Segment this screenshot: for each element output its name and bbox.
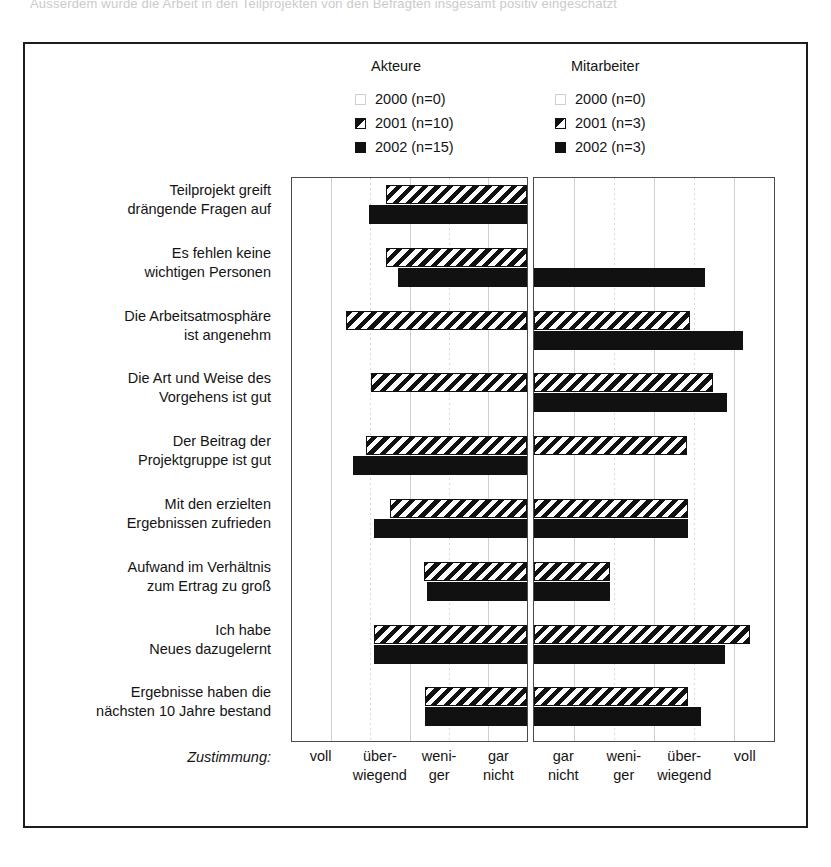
category-label-line: Teilprojekt greift: [25, 181, 271, 200]
legend-item-label: 2001 (n=10): [375, 115, 454, 131]
category-label: Die Arbeitsatmosphäreist angenehm: [25, 307, 271, 345]
chart-row: [534, 680, 774, 742]
chart-row: [534, 618, 774, 681]
category-label-line: Ergebnissen zufrieden: [25, 514, 271, 533]
bar-filled: [374, 519, 527, 538]
bar-hatched: [534, 625, 750, 644]
axis-tick-label: voll: [709, 747, 781, 766]
page-top-text-strip: Ausserdem wurde die Arbeit in den Teilpr…: [0, 0, 831, 26]
category-label-line: Projektgruppe ist gut: [25, 451, 271, 470]
category-label-line: Die Art und Weise des: [25, 369, 271, 388]
legend-item-label: 2002 (n=15): [375, 139, 454, 155]
category-label-line: Mit den erzielten: [25, 495, 271, 514]
bar-filled: [374, 645, 527, 664]
bar-filled: [534, 519, 688, 538]
bar-filled: [534, 331, 743, 350]
bar-hatched: [534, 373, 713, 392]
category-label-line: zum Ertrag zu groß: [25, 577, 271, 596]
category-label-line: Aufwand im Verhältnis: [25, 558, 271, 577]
chart-row: [534, 304, 774, 367]
axis-tick-label: garnicht: [462, 747, 534, 785]
legend-group-mitarbeiter: Mitarbeiter 2000 (n=0) 2001 (n=3) 2002 (…: [555, 58, 646, 160]
chart-row: [292, 555, 527, 618]
chart-row: [292, 680, 527, 742]
category-label-line: Vorgehens ist gut: [25, 388, 271, 407]
chart-row: [534, 492, 774, 555]
chart-row: [292, 178, 527, 241]
plot-panel-mitarbeiter: [533, 177, 775, 742]
chart-row: [534, 555, 774, 618]
category-label-line: Ergebnisse haben die: [25, 683, 271, 702]
filled-square-icon: [555, 142, 566, 153]
bar-filled: [534, 582, 610, 601]
figure-frame: Akteure 2000 (n=0) 2001 (n=10) 2002 (n=1…: [23, 42, 808, 828]
category-label-line: Neues dazugelernt: [25, 640, 271, 659]
bar-filled: [534, 393, 727, 412]
legend-title-mitarbeiter: Mitarbeiter: [571, 58, 646, 74]
legend-item: 2001 (n=10): [355, 112, 454, 134]
chart-row: [534, 429, 774, 492]
bar-hatched: [366, 436, 527, 455]
legend-item-label: 2001 (n=3): [575, 115, 646, 131]
chart-row: [292, 304, 527, 367]
bar-hatched: [534, 562, 610, 581]
bar-hatched: [390, 499, 527, 518]
chart-row: [292, 618, 527, 681]
bar-hatched: [534, 311, 690, 330]
category-label-line: nächsten 10 Jahre bestand: [25, 702, 271, 721]
empty-square-icon: [355, 94, 366, 105]
legend-group-akteure: Akteure 2000 (n=0) 2001 (n=10) 2002 (n=1…: [355, 58, 454, 160]
category-label-column: Teilprojekt greiftdrängende Fragen aufEs…: [25, 177, 283, 742]
category-label: Der Beitrag derProjektgruppe ist gut: [25, 432, 271, 470]
chart-row: [292, 366, 527, 429]
category-label-line: Ich habe: [25, 621, 271, 640]
axis-caption: Zustimmung:: [25, 749, 283, 765]
chart-row: [292, 241, 527, 304]
bar-filled: [353, 456, 527, 475]
category-label: Aufwand im Verhältniszum Ertrag zu groß: [25, 558, 271, 596]
category-label-line: Es fehlen keine: [25, 244, 271, 263]
category-label: Teilprojekt greiftdrängende Fragen auf: [25, 181, 271, 219]
category-label-line: Die Arbeitsatmosphäre: [25, 307, 271, 326]
bar-hatched: [371, 373, 527, 392]
legend-item: 2002 (n=3): [555, 136, 646, 158]
category-label: Die Art und Weise desVorgehens ist gut: [25, 369, 271, 407]
bar-filled: [534, 268, 705, 287]
hatched-square-icon: [555, 118, 566, 129]
bar-hatched: [386, 185, 527, 204]
category-label: Mit den erzieltenErgebnissen zufrieden: [25, 495, 271, 533]
filled-square-icon: [355, 142, 366, 153]
legend-item: 2001 (n=3): [555, 112, 646, 134]
category-label-line: wichtigen Personen: [25, 263, 271, 282]
empty-square-icon: [555, 94, 566, 105]
legend-item-label: 2000 (n=0): [575, 91, 646, 107]
legend-item: 2000 (n=0): [355, 88, 454, 110]
bar-filled: [427, 582, 527, 601]
bar-hatched: [386, 248, 527, 267]
bar-hatched: [374, 625, 527, 644]
chart-row: [534, 241, 774, 304]
bar-filled: [425, 707, 527, 726]
legend-item: 2000 (n=0): [555, 88, 646, 110]
category-label-line: Der Beitrag der: [25, 432, 271, 451]
plot-panel-akteure: [291, 177, 528, 742]
category-label: Ergebnisse haben dienächsten 10 Jahre be…: [25, 683, 271, 721]
category-label-line: ist angenehm: [25, 326, 271, 345]
category-label: Es fehlen keinewichtigen Personen: [25, 244, 271, 282]
legend-item-label: 2002 (n=3): [575, 139, 646, 155]
legend-item-label: 2000 (n=0): [375, 91, 446, 107]
bar-hatched: [346, 311, 527, 330]
bar-hatched: [534, 499, 688, 518]
partial-body-text: Ausserdem wurde die Arbeit in den Teilpr…: [30, 0, 820, 11]
axis-tick-line: voll: [709, 747, 781, 766]
bar-hatched: [534, 436, 687, 455]
legend-item: 2002 (n=15): [355, 136, 454, 158]
bar-filled: [534, 707, 701, 726]
category-label-line: drängende Fragen auf: [25, 200, 271, 219]
chart-row: [292, 492, 527, 555]
bar-filled: [398, 268, 527, 287]
chart-row: [534, 366, 774, 429]
hatched-square-icon: [355, 118, 366, 129]
bar-filled: [534, 645, 725, 664]
bar-hatched: [425, 687, 527, 706]
